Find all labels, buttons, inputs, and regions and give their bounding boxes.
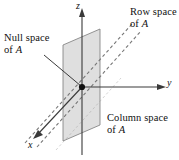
column-space-label-line2: of A [107, 124, 168, 136]
null-space-label-line2: of A [4, 44, 50, 56]
row-space-matrix-name: A [142, 18, 149, 29]
null-space-matrix-name: A [16, 44, 23, 55]
column-space-of-text: of [107, 124, 119, 135]
column-space-label: Column space of A [107, 112, 168, 135]
y-axis-label: y [167, 78, 171, 88]
null-space-label: Null space of A [4, 32, 50, 55]
row-space-of-text: of [130, 18, 142, 29]
subspace-diagram: Null space of A Row space of A Column sp… [0, 0, 179, 160]
x-axis-arrowhead [33, 130, 43, 139]
row-space-label-line2: of A [130, 18, 177, 30]
column-space-label-line1: Column space [107, 112, 168, 124]
y-axis-arrowhead [157, 84, 166, 90]
row-space-label-line1: Row space [130, 6, 177, 18]
null-space-of-text: of [4, 44, 16, 55]
row-space-label: Row space of A [130, 6, 177, 29]
z-axis-label: z [76, 1, 80, 11]
null-space-label-line1: Null space [4, 32, 50, 44]
origin-dot [79, 84, 85, 90]
x-axis-label: x [28, 140, 32, 150]
column-space-matrix-name: A [119, 124, 126, 135]
